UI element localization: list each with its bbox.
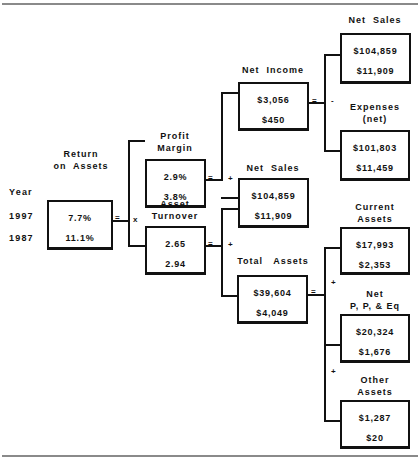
connector xyxy=(221,92,238,94)
connector xyxy=(221,92,223,180)
roa-label: Return on Assets xyxy=(46,148,116,172)
total-assets-value-1987: $4,049 xyxy=(239,308,306,318)
other-assets-label: Other Assets xyxy=(336,374,414,398)
equals-operator: = xyxy=(311,288,316,296)
expenses-box: $101,803 $11,459 xyxy=(340,130,410,181)
total-assets-label: Total Assets xyxy=(232,255,314,267)
minus-operator: - xyxy=(331,97,334,105)
connector xyxy=(221,295,238,297)
connector xyxy=(128,140,130,246)
total-assets-box: $39,604 $4,049 xyxy=(237,275,308,324)
year-header: Year xyxy=(9,187,33,197)
equals-operator: = xyxy=(208,174,213,182)
current-assets-box: $17,993 $2,353 xyxy=(340,227,410,275)
roa-box: 7.7% 11.1% xyxy=(47,200,113,250)
current-assets-value-1987: $2,353 xyxy=(342,260,408,270)
connector xyxy=(324,247,340,249)
equals-operator: = xyxy=(208,240,213,248)
net-sales-mid-value-1987: $11,909 xyxy=(240,211,307,221)
roa-value-1987: 11.1% xyxy=(49,233,111,243)
connector xyxy=(221,208,238,210)
current-assets-label: Current Assets xyxy=(336,201,414,225)
asset-turnover-box: 2.65 2.94 xyxy=(145,226,206,275)
connector xyxy=(324,150,340,152)
net-sales-mid-label: Net Sales xyxy=(232,162,314,174)
net-sales-mid-value-1997: $104,859 xyxy=(240,191,307,201)
net-income-value-1997: $3,056 xyxy=(240,95,307,105)
connector xyxy=(128,245,145,247)
equals-operator: = xyxy=(312,97,317,105)
other-assets-value-1987: $20 xyxy=(342,433,408,443)
divide-operator: + xyxy=(228,175,233,183)
net-sales-top-label: Net Sales xyxy=(336,14,414,26)
connector xyxy=(221,208,223,296)
profit-margin-value-1997: 2.9% xyxy=(147,172,204,182)
connector xyxy=(324,54,340,56)
net-ppe-box: $20,324 $1,676 xyxy=(340,314,410,363)
other-assets-value-1997: $1,287 xyxy=(342,413,408,423)
profit-margin-label: Profit Margin xyxy=(140,130,210,154)
equals-operator: = xyxy=(115,214,120,222)
connector xyxy=(221,197,238,199)
plus-operator: + xyxy=(331,279,336,287)
connector xyxy=(324,420,340,422)
net-income-box: $3,056 $450 xyxy=(238,82,309,131)
net-ppe-value-1997: $20,324 xyxy=(342,327,408,337)
asset-turnover-label: Asset Turnover xyxy=(140,198,210,222)
top-rule xyxy=(2,3,418,5)
net-income-label: Net Income xyxy=(232,64,314,76)
net-sales-mid-box: $104,859 $11,909 xyxy=(238,178,309,228)
other-assets-box: $1,287 $20 xyxy=(340,400,410,449)
expenses-value-1987: $11,459 xyxy=(342,163,408,173)
net-ppe-value-1987: $1,676 xyxy=(342,347,408,357)
year-1987: 1987 xyxy=(9,233,34,243)
total-assets-value-1997: $39,604 xyxy=(239,288,306,298)
net-ppe-label: Net P, P, & Eq xyxy=(336,288,414,312)
plus-operator: + xyxy=(331,368,336,376)
expenses-value-1997: $101,803 xyxy=(342,143,408,153)
roa-value-1997: 7.7% xyxy=(49,213,111,223)
bottom-rule xyxy=(2,455,418,457)
connector xyxy=(324,247,326,422)
current-assets-value-1997: $17,993 xyxy=(342,240,408,250)
expenses-label: Expenses (net) xyxy=(336,101,414,125)
year-1997: 1997 xyxy=(9,211,34,221)
times-operator: x xyxy=(133,216,137,224)
connector xyxy=(324,54,326,151)
net-sales-top-value-1997: $104,859 xyxy=(342,46,409,56)
net-income-value-1987: $450 xyxy=(240,115,307,125)
connector xyxy=(324,344,340,346)
divide-operator: + xyxy=(228,241,233,249)
asset-turnover-value-1997: 2.65 xyxy=(147,239,204,249)
net-sales-top-value-1987: $11,909 xyxy=(342,66,409,76)
net-sales-top-box: $104,859 $11,909 xyxy=(340,33,411,84)
asset-turnover-value-1987: 2.94 xyxy=(147,259,204,269)
